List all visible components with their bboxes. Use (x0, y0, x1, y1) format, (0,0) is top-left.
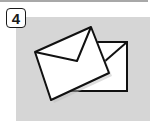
step-number-badge: 4 (6, 8, 26, 28)
step-number: 4 (12, 10, 20, 27)
